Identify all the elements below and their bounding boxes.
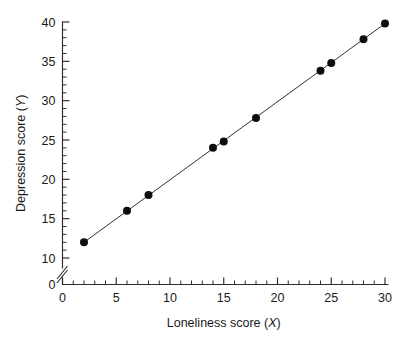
data-point bbox=[80, 238, 88, 246]
y-tick-label: 25 bbox=[42, 134, 56, 148]
data-point bbox=[209, 144, 217, 152]
y-tick-label: 40 bbox=[42, 16, 56, 30]
x-tick-label: 25 bbox=[324, 291, 338, 305]
x-tick-label: 20 bbox=[271, 291, 285, 305]
scatter-plot-figure: 101520253035400051015202530 Loneliness s… bbox=[0, 0, 404, 344]
data-point bbox=[327, 59, 335, 67]
x-tick-label: 15 bbox=[217, 291, 231, 305]
tick-labels-group: 101520253035400051015202530 bbox=[42, 16, 392, 305]
data-point bbox=[145, 191, 153, 199]
plot-canvas: 101520253035400051015202530 Loneliness s… bbox=[0, 0, 404, 344]
y-tick-label: 35 bbox=[42, 55, 56, 69]
data-point bbox=[123, 207, 131, 215]
x-axis-title: Loneliness score (X) bbox=[167, 316, 281, 330]
data-point bbox=[381, 20, 389, 28]
ticks-group bbox=[63, 22, 386, 285]
x-tick-label: 0 bbox=[59, 291, 66, 305]
axes-group bbox=[57, 22, 388, 285]
x-tick-label: 5 bbox=[113, 291, 120, 305]
data-point bbox=[220, 138, 228, 146]
y-axis-title: Depression score (Y) bbox=[14, 95, 28, 212]
x-tick-label: 30 bbox=[378, 291, 392, 305]
data-point bbox=[317, 67, 325, 75]
y-tick-label-zero: 0 bbox=[49, 278, 56, 292]
x-tick-label: 10 bbox=[163, 291, 177, 305]
y-tick-label: 10 bbox=[42, 252, 56, 266]
y-tick-label: 20 bbox=[42, 173, 56, 187]
y-tick-label: 30 bbox=[42, 94, 56, 108]
data-point bbox=[252, 114, 260, 122]
y-tick-label: 15 bbox=[42, 212, 56, 226]
data-point bbox=[360, 35, 368, 43]
